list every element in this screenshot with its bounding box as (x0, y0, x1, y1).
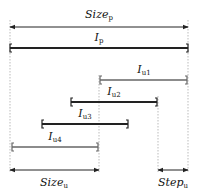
label-i-p-subscript: p (99, 37, 103, 45)
label-i-u2: Iu2 (107, 86, 120, 99)
size-u-label: Sizeu (40, 177, 68, 190)
step-u-label: Stepu (158, 177, 188, 190)
size-p-label-subscript: p (108, 14, 112, 22)
label-i-u2-subscript: u2 (112, 91, 121, 99)
step-u-label-base: Step (158, 176, 184, 189)
interval-i-u3 (42, 120, 128, 128)
interval-i-u2 (71, 98, 157, 106)
label-i-u3-subscript: u3 (83, 113, 92, 121)
label-i-u4: Iu4 (48, 131, 61, 144)
interval-i-u4 (12, 143, 98, 151)
size-p-label: Sizep (85, 9, 113, 22)
label-i-p: Ip (95, 32, 104, 45)
size-p-label-base: Size (85, 8, 108, 21)
interval-diagram: SizepSizeuStepuIpIu1Iu2Iu3Iu4 (0, 0, 197, 194)
diagram-svg (0, 0, 197, 194)
size-u-label-subscript: u (63, 182, 68, 190)
label-i-u4-subscript: u4 (53, 136, 62, 144)
interval-i-p (10, 44, 188, 52)
label-i-u3: Iu3 (78, 108, 91, 121)
label-i-u1-subscript: u1 (142, 69, 151, 77)
size-u-label-base: Size (40, 176, 63, 189)
interval-i-u1 (100, 76, 187, 84)
step-u-label-subscript: u (184, 182, 189, 190)
label-i-u1: Iu1 (137, 64, 150, 77)
